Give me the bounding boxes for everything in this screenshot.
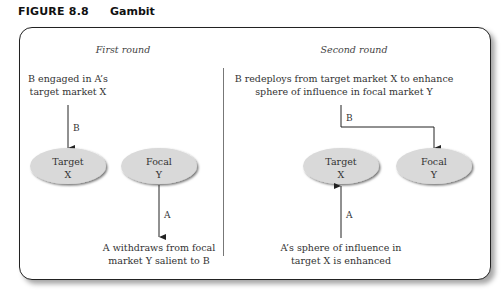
- first-round-bottom-text-line1: A withdraws from focal: [102, 242, 215, 253]
- node-label: Focal: [146, 156, 172, 167]
- second-round-focal-node: Focal Y: [396, 148, 472, 184]
- second-round-b-arrow-label: B: [346, 113, 353, 123]
- node-sublabel: Y: [155, 169, 163, 180]
- second-round-b-arrow: [341, 105, 434, 148]
- node-sublabel: X: [338, 169, 345, 180]
- gambit-diagram: First round B engaged in A’s target mark…: [0, 0, 502, 293]
- second-round-a-arrow-label: A: [345, 210, 353, 220]
- first-round-target-node: Target X: [30, 148, 106, 184]
- first-round-top-text-line2: target market X: [30, 86, 107, 97]
- second-round-target-node: Target X: [303, 148, 379, 184]
- second-round-top-text-line2: sphere of influence in focal market Y: [255, 86, 433, 97]
- second-round-heading: Second round: [321, 44, 388, 55]
- first-round-b-arrow-label: B: [73, 123, 80, 133]
- node-sublabel: Y: [430, 169, 438, 180]
- node-label: Target: [325, 156, 357, 167]
- node-label: Target: [52, 156, 84, 167]
- first-round-bottom-text-line2: market Y salient to B: [108, 255, 209, 266]
- node-label: Focal: [421, 156, 447, 167]
- second-round-bottom-text-line1: A’s sphere of influence in: [280, 242, 402, 253]
- first-round-a-arrow-label: A: [163, 210, 171, 220]
- node-sublabel: X: [65, 169, 72, 180]
- first-round-heading: First round: [95, 44, 150, 55]
- second-round-top-text-line1: B redeploys from target market X to enha…: [235, 73, 454, 84]
- first-round-focal-node: Focal Y: [121, 148, 197, 184]
- first-round-top-text-line1: B engaged in A’s: [28, 73, 108, 84]
- second-round-bottom-text-line2: target X is enhanced: [291, 255, 391, 266]
